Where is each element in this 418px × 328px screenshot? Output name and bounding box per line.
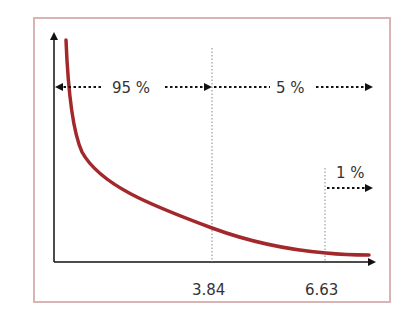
density-curve <box>66 40 369 255</box>
chi-square-chart: 95 % 5 % 1 % 3.84 6.63 <box>0 0 418 328</box>
label-5-percent: 5 % <box>276 79 305 97</box>
tick-label-3-84: 3.84 <box>192 281 225 299</box>
label-1-percent: 1 % <box>336 164 365 182</box>
label-95-percent: 95 % <box>112 79 150 97</box>
tick-label-6-63: 6.63 <box>305 281 338 299</box>
